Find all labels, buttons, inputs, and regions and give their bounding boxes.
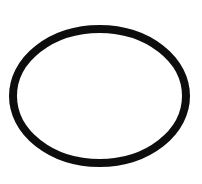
- o-ring-figure: [0, 0, 202, 184]
- image-canvas: Single closed black elliptical ring outl…: [0, 0, 202, 184]
